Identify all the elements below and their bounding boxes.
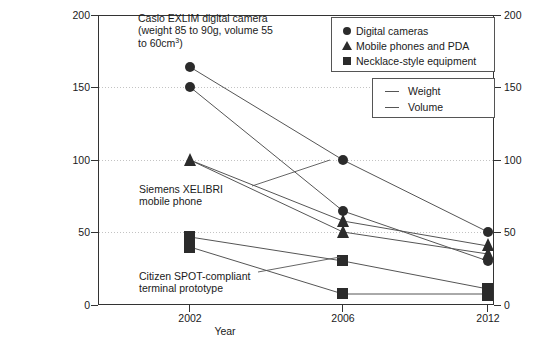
circle-icon xyxy=(338,27,356,35)
x-axis-title: Year xyxy=(195,325,255,337)
y-axis-left-tick-100: 100 xyxy=(56,154,90,166)
y-axis-right-tick-150: 150 xyxy=(504,81,522,93)
chart-figure: 200 150 100 50 0 200 150 100 50 0 2002 2… xyxy=(0,0,553,337)
annotation-casio-line2: (weight 85 to 90g, volume 55 xyxy=(138,24,273,36)
y-axis-left-tick-50: 50 xyxy=(56,226,90,238)
y-tick-mark-right-0 xyxy=(494,305,501,306)
line-icon-weight xyxy=(383,91,401,92)
annotation-casio-line3-text: to 60cm xyxy=(138,37,175,49)
annotation-casio: Casio EXLIM digital camera (weight 85 to… xyxy=(138,12,273,49)
x-axis-tick-2012: 2012 xyxy=(458,312,518,324)
y-tick-mark-left-200 xyxy=(91,15,98,16)
annotation-casio-line3-close: ) xyxy=(179,37,183,49)
y-tick-mark-right-200 xyxy=(494,15,501,16)
legend-item-volume[interactable]: Volume xyxy=(383,99,494,115)
x-axis-tick-2006: 2006 xyxy=(313,312,373,324)
y-tick-mark-right-100 xyxy=(494,160,501,161)
legend-label-volume: Volume xyxy=(408,101,443,113)
legend-item-necklace[interactable]: Necklace-style equipment xyxy=(338,53,494,68)
y-axis-right-tick-100: 100 xyxy=(504,154,522,166)
y-axis-right-tick-200: 200 xyxy=(504,9,522,21)
legend-label-necklace: Necklace-style equipment xyxy=(356,55,476,67)
annotation-citizen: Citizen SPOT-compliant terminal prototyp… xyxy=(139,270,250,295)
y-tick-mark-left-100 xyxy=(91,160,98,161)
annotation-casio-line3: to 60cm3) xyxy=(138,37,273,49)
annotation-casio-line1: Casio EXLIM digital camera xyxy=(138,12,273,24)
y-tick-mark-left-0 xyxy=(91,305,98,306)
legend-item-mobile-phones[interactable]: Mobile phones and PDA xyxy=(338,38,494,53)
annotation-siemens-line1: Siemens XELIBRI xyxy=(139,183,223,195)
annotation-siemens: Siemens XELIBRI mobile phone xyxy=(139,183,223,208)
x-tick-mark-2002 xyxy=(189,305,190,312)
y-axis-left-tick-200: 200 xyxy=(56,9,90,21)
triangle-icon xyxy=(338,41,356,50)
legend-label-digital-cameras: Digital cameras xyxy=(356,25,428,37)
x-axis-tick-2002: 2002 xyxy=(160,312,220,324)
x-tick-mark-2012 xyxy=(487,305,488,312)
x-tick-mark-2006 xyxy=(342,305,343,312)
annotation-siemens-line2: mobile phone xyxy=(139,195,223,207)
y-axis-left-tick-150: 150 xyxy=(56,81,90,93)
y-tick-mark-left-150 xyxy=(91,87,98,88)
y-tick-mark-left-50 xyxy=(91,232,98,233)
line-icon-volume xyxy=(383,107,401,108)
y-axis-right-tick-50: 50 xyxy=(504,226,516,238)
legend-item-weight[interactable]: Weight xyxy=(383,83,494,99)
legend-label-weight: Weight xyxy=(408,85,441,97)
square-icon xyxy=(338,57,356,65)
y-axis-left-tick-0: 0 xyxy=(56,299,90,311)
legend-lines[interactable]: Weight Volume xyxy=(372,78,495,118)
y-tick-mark-right-50 xyxy=(494,232,501,233)
legend-label-mobile-phones: Mobile phones and PDA xyxy=(356,40,469,52)
annotation-citizen-line2: terminal prototype xyxy=(139,282,250,294)
legend-markers[interactable]: Digital cameras Mobile phones and PDA Ne… xyxy=(331,17,495,72)
legend-item-digital-cameras[interactable]: Digital cameras xyxy=(338,23,494,38)
annotation-citizen-line1: Citizen SPOT-compliant xyxy=(139,270,250,282)
y-axis-right-tick-0: 0 xyxy=(504,299,510,311)
y-tick-mark-right-150 xyxy=(494,87,501,88)
